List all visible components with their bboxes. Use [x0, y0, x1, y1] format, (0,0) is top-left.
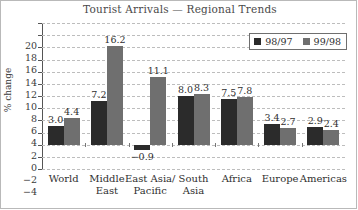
y-axis-tick-label: −4 — [23, 186, 37, 197]
y-axis-title: % change — [3, 45, 13, 135]
y-axis-labels: % change −4−202468101214161820 — [1, 23, 37, 169]
bar-value-label: 2.7 — [273, 116, 303, 127]
bar — [134, 145, 150, 150]
y-axis-tick-label: 18 — [25, 52, 37, 63]
bar — [221, 99, 237, 145]
y-axis-tick-label: 12 — [25, 88, 37, 99]
y-axis-tick — [38, 35, 42, 36]
x-axis-tick — [129, 143, 130, 147]
y-axis-tick-label: 0 — [31, 161, 37, 172]
y-axis-tick-label: 14 — [25, 76, 37, 87]
legend-item: 98/97 — [254, 36, 292, 47]
legend-swatch-icon — [303, 38, 310, 45]
x-axis-tick — [85, 143, 86, 147]
grid-line — [42, 60, 345, 61]
y-axis-tick-label: 16 — [25, 64, 37, 75]
y-axis-tick — [38, 157, 42, 158]
bar-value-label: 7.8 — [230, 85, 260, 96]
bar — [194, 94, 210, 144]
y-axis-tick — [38, 72, 42, 73]
bar — [91, 101, 107, 145]
bar — [280, 128, 296, 144]
grid-line — [42, 169, 345, 170]
y-axis-tick — [38, 169, 42, 170]
x-axis-tick — [172, 143, 173, 147]
bar — [307, 127, 323, 145]
legend-item: 99/98 — [303, 36, 341, 47]
bar — [64, 118, 80, 145]
bar-value-label: 4.4 — [57, 106, 87, 117]
bar — [178, 96, 194, 145]
bar — [107, 46, 123, 145]
y-axis-tick-label: 20 — [25, 40, 37, 51]
chart-legend: 98/9799/98 — [249, 33, 347, 50]
y-axis-tick — [38, 145, 42, 146]
bar-value-label: 16.2 — [100, 34, 130, 45]
grid-line — [42, 72, 345, 73]
x-axis-tick — [258, 143, 259, 147]
y-axis-tick — [38, 133, 42, 134]
y-axis-tick — [38, 96, 42, 97]
y-axis-tick — [38, 47, 42, 48]
bar-value-label: −0.9 — [127, 151, 157, 162]
bar-value-label: 8.3 — [187, 82, 217, 93]
chart-title: Tourist Arrivals — Regional Trends — [1, 3, 358, 15]
y-axis-tick-label: 2 — [31, 149, 37, 160]
y-axis-tick-label: 8 — [31, 113, 37, 124]
y-axis-tick — [38, 108, 42, 109]
x-axis-category-labels: WorldMiddle EastEast Asia/ PacificSouth … — [42, 173, 345, 209]
x-axis-category-label: Americas — [295, 173, 351, 185]
chart-container: Tourist Arrivals — Regional Trends % cha… — [0, 0, 357, 209]
y-axis-tick-label: 6 — [31, 125, 37, 136]
grid-line — [42, 145, 345, 146]
y-axis-tick-label: 10 — [25, 100, 37, 111]
bar — [237, 97, 253, 144]
y-axis-tick — [38, 60, 42, 61]
x-axis-tick — [302, 143, 303, 147]
legend-label: 98/97 — [265, 36, 292, 47]
x-axis-tick — [215, 143, 216, 147]
y-axis-tick-label: 4 — [31, 137, 37, 148]
bar — [323, 130, 339, 145]
grid-line — [42, 23, 345, 24]
grid-line — [42, 157, 345, 158]
y-axis-tick — [38, 23, 42, 24]
legend-label: 99/98 — [314, 36, 341, 47]
bar-value-label: 11.1 — [143, 65, 173, 76]
y-axis-tick — [38, 84, 42, 85]
bar — [150, 77, 166, 145]
bar-value-label: 2.4 — [316, 118, 346, 129]
legend-swatch-icon — [254, 38, 261, 45]
bar — [48, 126, 64, 144]
